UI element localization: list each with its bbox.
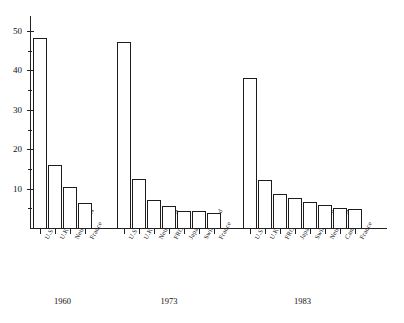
bar bbox=[48, 165, 62, 228]
bar bbox=[147, 200, 161, 228]
bar bbox=[303, 202, 317, 228]
x-axis-tick bbox=[40, 229, 41, 234]
x-axis-tick bbox=[169, 229, 170, 234]
bar bbox=[63, 187, 77, 228]
y-axis-tick-minor bbox=[28, 51, 32, 52]
x-axis-tick bbox=[295, 229, 296, 234]
plot-area: 1020304050U.SU.KNetherlandsFrance1960U.S… bbox=[0, 0, 404, 323]
bar bbox=[33, 38, 47, 228]
y-axis-tick-label: 40 bbox=[2, 66, 22, 75]
x-axis-tick bbox=[214, 229, 215, 234]
bar bbox=[132, 179, 146, 228]
bar bbox=[273, 194, 287, 228]
x-axis-tick bbox=[124, 229, 125, 234]
y-axis-tick-minor bbox=[28, 130, 32, 131]
bar bbox=[78, 203, 92, 228]
x-axis-tick bbox=[154, 229, 155, 234]
x-axis-tick bbox=[55, 229, 56, 234]
bar-chart: 1020304050U.SU.KNetherlandsFrance1960U.S… bbox=[0, 0, 404, 323]
bar bbox=[207, 213, 221, 228]
x-axis-tick bbox=[184, 229, 185, 234]
bar bbox=[333, 208, 347, 228]
x-axis-tick bbox=[265, 229, 266, 234]
y-axis-tick-minor bbox=[28, 169, 32, 170]
x-axis-tick bbox=[340, 229, 341, 234]
y-axis-tick-major bbox=[27, 31, 34, 32]
group-year-label: 1960 bbox=[30, 297, 95, 306]
y-axis-tick-minor bbox=[28, 208, 32, 209]
y-axis-line bbox=[30, 16, 31, 228]
x-axis-category-label: U.S bbox=[253, 228, 264, 241]
x-axis-tick bbox=[70, 229, 71, 234]
y-axis-tick-label: 30 bbox=[2, 106, 22, 115]
bar bbox=[288, 198, 302, 228]
bar bbox=[192, 211, 206, 228]
group-year-label: 1973 bbox=[114, 297, 224, 306]
x-axis-tick bbox=[139, 229, 140, 234]
x-axis-tick bbox=[250, 229, 251, 234]
bar bbox=[117, 42, 131, 228]
y-axis-tick-label: 50 bbox=[2, 27, 22, 36]
y-axis-tick-label: 20 bbox=[2, 145, 22, 154]
bar bbox=[318, 205, 332, 228]
x-axis-category-label: U.S bbox=[127, 228, 138, 241]
x-axis-tick bbox=[85, 229, 86, 234]
group-year-label: 1983 bbox=[240, 297, 365, 306]
x-axis-tick bbox=[280, 229, 281, 234]
x-axis-tick bbox=[199, 229, 200, 234]
x-axis-line bbox=[30, 228, 387, 229]
x-axis-category-label: U.S bbox=[43, 228, 54, 241]
bar bbox=[258, 180, 272, 228]
y-axis-tick-label: 10 bbox=[2, 185, 22, 194]
x-axis-tick bbox=[310, 229, 311, 234]
bar bbox=[348, 209, 362, 228]
bar bbox=[243, 78, 257, 228]
x-axis-tick bbox=[325, 229, 326, 234]
x-axis-tick bbox=[355, 229, 356, 234]
bar bbox=[162, 206, 176, 228]
y-axis-tick-minor bbox=[28, 90, 32, 91]
bar bbox=[177, 211, 191, 228]
